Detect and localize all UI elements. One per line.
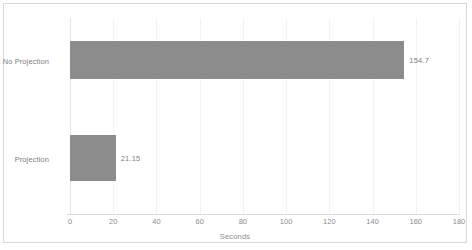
x-tick-label: 120 (323, 217, 336, 226)
category-label-projection: Projection (15, 155, 49, 164)
x-tick-label: 100 (280, 217, 293, 226)
bar-row: 21.15 (67, 129, 459, 187)
plot-area: 154.7 21.15 (67, 18, 459, 214)
x-tick-label: 80 (239, 217, 247, 226)
bar-value-projection: 21.15 (121, 154, 141, 163)
chart-frame: 154.7 21.15 No Projection Projection 020… (3, 3, 467, 243)
x-tick-label: 0 (68, 217, 72, 226)
x-tick-label: 180 (453, 217, 466, 226)
bar-value-no-projection: 154.7 (409, 56, 429, 65)
gridline (459, 18, 460, 214)
bars-layer: 154.7 21.15 (67, 18, 459, 214)
category-label-no-projection: No Projection (3, 57, 49, 66)
bar-no-projection[interactable] (70, 41, 404, 79)
x-tick-label: 60 (195, 217, 203, 226)
x-tick-label: 140 (366, 217, 379, 226)
x-tick-label: 160 (410, 217, 423, 226)
bar-row: 154.7 (67, 31, 459, 89)
x-tick-label: 40 (152, 217, 160, 226)
x-axis-title: Seconds (4, 232, 466, 241)
x-tick-label: 20 (109, 217, 117, 226)
bar-projection[interactable] (70, 135, 116, 181)
x-axis-line (67, 214, 460, 215)
